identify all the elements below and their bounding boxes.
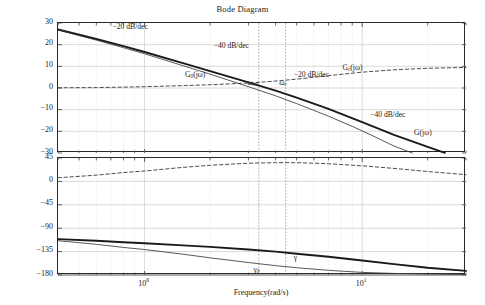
slope-minus20-left: −20 dB/dec (113, 22, 148, 31)
phase-ytick-1: 0 (19, 175, 53, 184)
magnitude-ytick-2: 10 (19, 60, 53, 69)
phase-margin-gamma: γ (294, 253, 297, 262)
page-title: Bode Diagram (0, 4, 485, 14)
magnitude-ytick-4: −10 (19, 103, 53, 112)
phase-ytick-3: −90 (19, 222, 53, 231)
curve-Gcj (58, 163, 466, 178)
magnitude-ytick-0: 30 (19, 17, 53, 26)
magnitude-plot-svg (58, 23, 466, 153)
phase-ytick-0: 45 (19, 152, 53, 161)
curve-label-gc: Gc(jω) (342, 63, 362, 72)
phase-ytick-2: −45 (19, 198, 53, 207)
xtick-1: 101 (356, 277, 367, 288)
phase-margin-gamma0: γ0 (254, 265, 260, 274)
magnitude-ytick-3: 0 (19, 82, 53, 91)
phase-ytick-5: −180 (19, 269, 53, 278)
xtick-0: 100 (138, 277, 149, 288)
curve-label-g0: G0(jω) (185, 70, 205, 79)
slope-minus40-upper: −40 dB/dec (214, 41, 249, 50)
magnitude-plot-area (57, 22, 465, 152)
slope-minus40-lower: −40 dB/dec (370, 110, 405, 119)
phase-plot-area (57, 157, 465, 274)
magnitude-ytick-1: 20 (19, 38, 53, 47)
phase-plot-svg (58, 158, 466, 275)
curve-label-g: G(jω) (414, 128, 432, 137)
magnitude-ytick-5: −20 (19, 125, 53, 134)
curve-Gj (58, 239, 466, 271)
curve-Gcj (58, 67, 466, 87)
frequency-axis-label: Frequency(rad/s) (234, 288, 289, 297)
phase-ytick-4: −135 (19, 245, 53, 254)
curve-G0j (58, 241, 466, 275)
bode-diagram-figure: Bode Diagram Magnitude(dB) 3020100−10−20… (0, 0, 485, 305)
slope-minus20-right: −20 dB/dec (294, 70, 329, 79)
curve-Gj (58, 30, 445, 153)
crossover-omega-c: ωc (279, 78, 287, 87)
crossover-omega-c0: ωc0 (247, 78, 257, 87)
